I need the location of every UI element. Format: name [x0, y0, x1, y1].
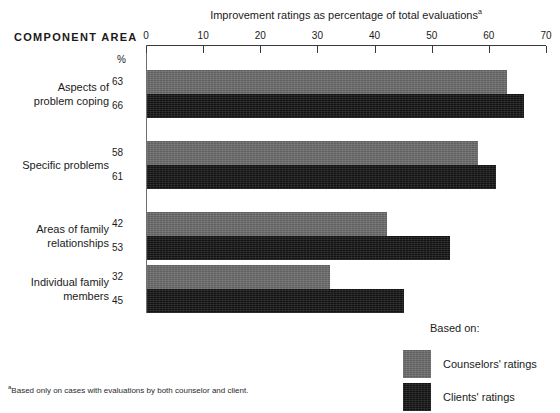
bar-clients: [147, 289, 404, 313]
x-axis-tick-label: 40: [369, 30, 380, 41]
x-axis-tick: [375, 46, 376, 53]
category-label-line: Aspects of: [0, 80, 109, 94]
x-axis-tick: [146, 46, 147, 53]
bar-counselors: [147, 70, 507, 94]
x-axis-line: [146, 45, 546, 46]
bar-group: 4253Areas of familyrelationships: [0, 212, 560, 260]
bar-row: [147, 289, 404, 313]
x-axis-tick-label: 30: [312, 30, 323, 41]
x-axis-tick-label: 70: [540, 30, 551, 41]
bar-group: 5861Specific problems: [0, 141, 560, 189]
category-label-line: relationships: [0, 236, 109, 250]
bar-value-label: 45: [112, 289, 123, 313]
bar-row: [147, 212, 387, 236]
bar-clients: [147, 236, 450, 260]
bar-row: [147, 265, 330, 289]
bar-value-label: 58: [112, 141, 123, 165]
category-label-line: members: [0, 289, 109, 303]
chart-title-text: Improvement ratings as percentage of tot…: [210, 9, 478, 21]
bar-counselors: [147, 212, 387, 236]
x-axis-tick: [432, 46, 433, 53]
bar-row: [147, 236, 450, 260]
bar-value-label: 63: [112, 70, 123, 94]
chart-footnote: aBased only on cases with evaluations by…: [8, 384, 248, 395]
percent-unit-label: %: [117, 54, 126, 65]
legend-label: Counselors' ratings: [443, 350, 537, 378]
legend-item[interactable]: Clients' ratings: [403, 383, 560, 411]
bar-value-label: 42: [112, 212, 123, 236]
bar-value-label: 66: [112, 94, 123, 118]
y-axis-baseline: [146, 45, 147, 313]
footnote-text: Based only on cases with evaluations by …: [11, 386, 248, 395]
legend-label: Clients' ratings: [443, 383, 515, 411]
x-axis-tick: [203, 46, 204, 53]
bar-row: [147, 141, 478, 165]
category-label: Specific problems: [0, 158, 109, 172]
dark-swatch: [403, 383, 431, 411]
light-gray-swatch: [403, 350, 431, 378]
bar-row: [147, 94, 524, 118]
x-axis-tick-label: 50: [426, 30, 437, 41]
component-area-heading: COMPONENT AREA: [14, 31, 138, 43]
legend-title: Based on:: [430, 322, 480, 334]
legend-item[interactable]: Counselors' ratings: [403, 350, 560, 378]
bar-row: [147, 165, 496, 189]
x-axis-tick-label: 20: [255, 30, 266, 41]
bar-clients: [147, 165, 496, 189]
category-label: Individual familymembers: [0, 275, 109, 303]
bar-value-label: 61: [112, 165, 123, 189]
chart-title: Improvement ratings as percentage of tot…: [146, 8, 546, 21]
bar-group: 6366Aspects ofproblem coping: [0, 70, 560, 118]
category-label: Areas of familyrelationships: [0, 222, 109, 250]
bar-counselors: [147, 265, 330, 289]
bar-clients: [147, 94, 524, 118]
bar-value-label: 53: [112, 236, 123, 260]
bar-value-label: 32: [112, 265, 123, 289]
x-axis-tick: [317, 46, 318, 53]
x-axis-tick-label: 0: [143, 30, 149, 41]
category-label: Aspects ofproblem coping: [0, 80, 109, 108]
category-label-line: Areas of family: [0, 222, 109, 236]
category-label-line: Individual family: [0, 275, 109, 289]
bar-counselors: [147, 141, 478, 165]
x-axis-tick-label: 60: [483, 30, 494, 41]
x-axis-tick: [260, 46, 261, 53]
x-axis-tick: [546, 46, 547, 53]
bar-row: [147, 70, 507, 94]
category-label-line: Specific problems: [0, 158, 109, 172]
x-axis-tick: [489, 46, 490, 53]
x-axis-tick-label: 10: [198, 30, 209, 41]
category-label-line: problem coping: [0, 94, 109, 108]
bar-group: 3245Individual familymembers: [0, 265, 560, 313]
chart-title-footnote-marker: a: [478, 8, 482, 15]
